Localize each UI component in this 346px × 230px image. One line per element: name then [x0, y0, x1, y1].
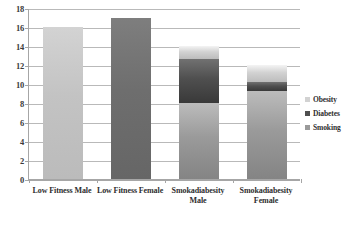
bar-segment[interactable] [43, 27, 83, 179]
bar-group[interactable] [247, 8, 287, 179]
legend-swatch-icon [305, 97, 310, 102]
x-axis-label: Smokadiabesity Male [164, 186, 232, 206]
chart-legend: ObesityDiabetesSmoking [305, 92, 346, 134]
bar-segment-diabetes[interactable] [247, 82, 287, 91]
plot-area: 024681012141618 [28, 9, 300, 180]
bar-group[interactable] [43, 8, 83, 179]
legend-item[interactable]: Obesity [305, 92, 346, 106]
legend-label: Smoking [313, 123, 341, 132]
bar-segment-smoking[interactable] [247, 91, 287, 179]
x-axis-tick-mark [97, 179, 98, 183]
legend-label: Diabetes [313, 109, 340, 118]
legend-item[interactable]: Smoking [305, 120, 346, 134]
bar-series-layer [29, 9, 300, 179]
x-axis-label: Low Fitness Female [96, 186, 164, 196]
bar-group[interactable] [111, 8, 151, 179]
legend-item[interactable]: Diabetes [305, 106, 346, 120]
bar-segment[interactable] [111, 18, 151, 180]
x-axis-label: Smokadiabesity Female [232, 186, 300, 206]
legend-label: Obesity [313, 95, 337, 104]
x-axis-label: Low Fitness Male [28, 186, 96, 196]
legend-swatch-icon [305, 111, 310, 116]
bar-segment-diabetes[interactable] [179, 59, 219, 103]
x-axis-tick-mark [233, 179, 234, 183]
bar-segment-obesity[interactable] [179, 46, 219, 59]
x-axis-tick-mark [165, 179, 166, 183]
bar-chart: 024681012141618 Low Fitness MaleLow Fitn… [0, 0, 346, 230]
x-axis-tick-mark [301, 179, 302, 183]
bar-segment-obesity[interactable] [247, 65, 287, 82]
legend-swatch-icon [305, 125, 310, 130]
x-axis-tick-mark [29, 179, 30, 183]
bar-segment-smoking[interactable] [179, 103, 219, 179]
bar-group[interactable] [179, 8, 219, 179]
